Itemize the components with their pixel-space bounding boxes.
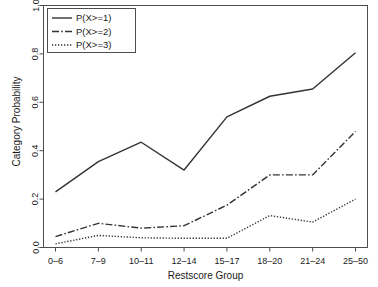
series-group bbox=[56, 53, 356, 244]
y-tick-label: 0.8 bbox=[31, 48, 41, 61]
x-tick-label: 25–50 bbox=[343, 256, 368, 266]
legend-label-1: P(X>=1) bbox=[76, 12, 111, 23]
x-tick-label: 7–9 bbox=[91, 256, 106, 266]
series-line-3 bbox=[56, 199, 356, 244]
y-tick-label: 0.0 bbox=[31, 241, 41, 254]
legend: P(X>=1)P(X>=2)P(X>=3) bbox=[48, 9, 136, 53]
x-tick-label: 0–6 bbox=[48, 256, 63, 266]
x-axis: 0–67–910–1112–1415–1718–2021–2425–50 bbox=[48, 248, 368, 266]
series-line-2 bbox=[56, 131, 356, 236]
series-line-1 bbox=[56, 53, 356, 192]
chart-figure: 0.00.20.40.60.81.0 0–67–910–1112–1415–17… bbox=[0, 0, 378, 287]
legend-label-3: P(X>=3) bbox=[76, 39, 111, 50]
y-tick-label: 1.0 bbox=[31, 0, 41, 12]
line-chart: 0.00.20.40.60.81.0 0–67–910–1112–1415–17… bbox=[0, 0, 378, 287]
x-tick-label: 10–11 bbox=[129, 256, 153, 266]
y-axis-title: Category Probability bbox=[11, 62, 22, 182]
legend-label-2: P(X>=2) bbox=[76, 26, 111, 37]
x-tick-label: 15–17 bbox=[214, 256, 239, 266]
y-tick-label: 0.4 bbox=[31, 144, 41, 157]
x-tick-label: 18–20 bbox=[257, 256, 282, 266]
x-axis-title: Restscore Group bbox=[43, 270, 368, 281]
y-tick-label: 0.6 bbox=[31, 96, 41, 109]
x-tick-label: 12–14 bbox=[172, 256, 197, 266]
y-axis: 0.00.20.40.60.81.0 bbox=[31, 0, 44, 254]
y-tick-label: 0.2 bbox=[31, 193, 41, 206]
x-tick-label: 21–24 bbox=[300, 256, 325, 266]
